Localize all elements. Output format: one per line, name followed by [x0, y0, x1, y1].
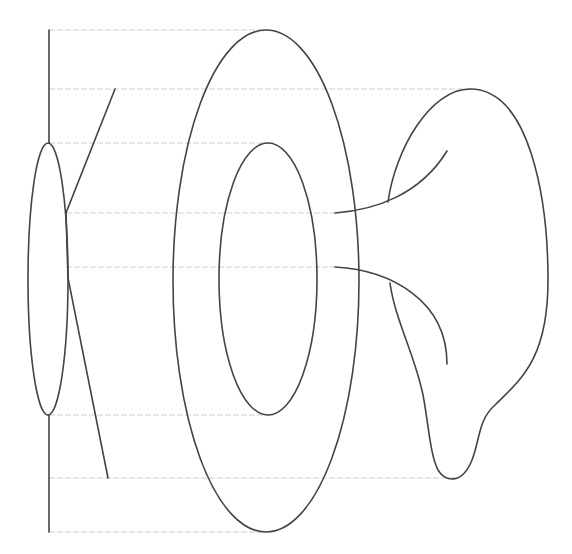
- diagonal-lines: [66, 89, 115, 478]
- outer-ellipse: [173, 30, 359, 532]
- funnel-pinna: [335, 89, 548, 479]
- inner-ellipse: [219, 143, 317, 415]
- neck-lower: [335, 267, 447, 364]
- pinna-outline: [388, 89, 548, 479]
- guide-lines: [49, 30, 470, 532]
- small-ellipse: [28, 143, 68, 415]
- ear-diagram: [0, 0, 572, 554]
